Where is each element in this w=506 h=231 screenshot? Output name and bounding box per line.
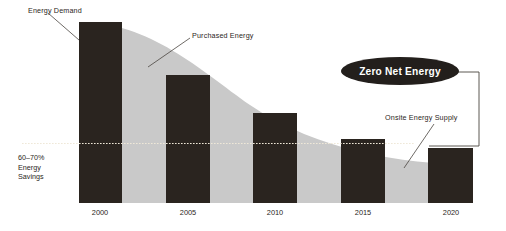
- bar-2000: [79, 22, 122, 203]
- bar-2005: [166, 75, 210, 203]
- zero-net-energy-label: Zero Net Energy: [359, 66, 441, 77]
- energy-demand-label: Energy Demand: [28, 6, 82, 15]
- onsite-energy-supply-label: Onsite Energy Supply: [385, 113, 458, 122]
- savings-note-line2: Energy: [18, 163, 44, 173]
- axis-label-2005: 2005: [158, 208, 218, 217]
- axis-label-2010: 2010: [245, 208, 305, 217]
- energy-demand-leader: [48, 13, 79, 40]
- bar-2020: [428, 148, 473, 203]
- figure-canvas: Zero Net Energy Energy Demand Purchased …: [0, 0, 506, 231]
- savings-note-line1: 60–70%: [18, 153, 44, 163]
- callout-connector: [429, 72, 479, 146]
- axis-label-2015: 2015: [333, 208, 393, 217]
- bar-2010: [253, 113, 297, 203]
- purchased-energy-label: Purchased Energy: [192, 31, 254, 40]
- axis-label-2020: 2020: [421, 208, 481, 217]
- bar-2015: [341, 139, 385, 203]
- savings-note-line3: Savings: [18, 172, 44, 182]
- savings-note: 60–70% Energy Savings: [18, 153, 44, 182]
- axis-label-2000: 2000: [70, 208, 130, 217]
